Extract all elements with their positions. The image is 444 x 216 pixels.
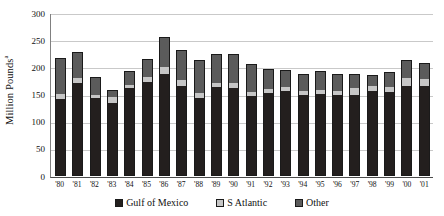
- bar-group[interactable]: [346, 14, 363, 176]
- bar-segment[interactable]: [143, 60, 152, 76]
- bar-segment[interactable]: [195, 61, 204, 93]
- bar-segment[interactable]: [402, 86, 411, 175]
- bar-segment[interactable]: [333, 95, 342, 175]
- bar-segment[interactable]: [56, 59, 65, 94]
- bar-stack[interactable]: [124, 71, 135, 176]
- bar-segment[interactable]: [368, 91, 377, 175]
- bar-segment[interactable]: [125, 88, 134, 175]
- bar-segment[interactable]: [333, 75, 342, 91]
- bar-stack[interactable]: [298, 74, 309, 177]
- bar-segment[interactable]: [247, 65, 256, 92]
- bar-segment[interactable]: [264, 70, 273, 89]
- bar-group[interactable]: [381, 14, 398, 176]
- bar-stack[interactable]: [72, 52, 83, 176]
- bar-segment[interactable]: [299, 75, 308, 91]
- bar-group[interactable]: [173, 14, 190, 176]
- bar-segment[interactable]: [316, 94, 325, 176]
- bar-stack[interactable]: [194, 60, 205, 176]
- x-axis-tick-label: '80: [51, 180, 68, 194]
- bar-group[interactable]: [121, 14, 138, 176]
- bar-stack[interactable]: [384, 72, 395, 176]
- bar-stack[interactable]: [142, 59, 153, 176]
- bar-segment[interactable]: [281, 91, 290, 175]
- bar-group[interactable]: [139, 14, 156, 176]
- bar-segment[interactable]: [385, 92, 394, 175]
- bar-stack[interactable]: [367, 75, 378, 176]
- bar-segment[interactable]: [160, 67, 169, 74]
- bar-stack[interactable]: [228, 54, 239, 176]
- bar-group[interactable]: [208, 14, 225, 176]
- bar-segment[interactable]: [73, 83, 82, 175]
- bar-segment[interactable]: [56, 99, 65, 175]
- bar-stack[interactable]: [401, 60, 412, 176]
- legend-item[interactable]: Other: [295, 198, 329, 208]
- bar-group[interactable]: [52, 14, 69, 176]
- bar-segment[interactable]: [316, 72, 325, 90]
- bar-stack[interactable]: [55, 58, 66, 176]
- bar-stack[interactable]: [419, 63, 430, 176]
- legend-swatch-icon: [216, 199, 224, 207]
- bar-segment[interactable]: [212, 87, 221, 175]
- bar-segment[interactable]: [247, 96, 256, 175]
- bar-group[interactable]: [87, 14, 104, 176]
- bar-group[interactable]: [260, 14, 277, 176]
- bar-segment[interactable]: [108, 103, 117, 175]
- bar-segment[interactable]: [385, 73, 394, 87]
- bar-group[interactable]: [69, 14, 86, 176]
- bar-segment[interactable]: [143, 82, 152, 175]
- bar-stack[interactable]: [246, 64, 257, 176]
- bar-segment[interactable]: [281, 71, 290, 87]
- bar-segment[interactable]: [91, 78, 100, 94]
- bar-group[interactable]: [364, 14, 381, 176]
- bar-segment[interactable]: [402, 78, 411, 86]
- bar-stack[interactable]: [349, 74, 360, 176]
- bar-stack[interactable]: [90, 77, 101, 176]
- bar-stack[interactable]: [280, 70, 291, 176]
- bar-segment[interactable]: [212, 55, 221, 83]
- y-axis-tick-label: 150: [32, 91, 46, 100]
- bar-stack[interactable]: [315, 71, 326, 176]
- bar-group[interactable]: [104, 14, 121, 176]
- bar-segment[interactable]: [420, 86, 429, 175]
- bar-group[interactable]: [294, 14, 311, 176]
- bar-stack[interactable]: [176, 50, 187, 176]
- x-axis-tick-label: '94: [294, 180, 311, 194]
- bar-group[interactable]: [398, 14, 415, 176]
- bar-segment[interactable]: [125, 72, 134, 84]
- bar-segment[interactable]: [350, 75, 359, 88]
- bar-segment[interactable]: [420, 79, 429, 86]
- bar-segment[interactable]: [350, 95, 359, 175]
- bar-group[interactable]: [329, 14, 346, 176]
- bar-group[interactable]: [242, 14, 259, 176]
- bar-segment[interactable]: [177, 51, 186, 81]
- bar-segment[interactable]: [177, 86, 186, 175]
- bar-segment[interactable]: [368, 76, 377, 87]
- bar-segment[interactable]: [160, 74, 169, 175]
- bar-segment[interactable]: [264, 93, 273, 175]
- bar-group[interactable]: [156, 14, 173, 176]
- bar-segment[interactable]: [402, 61, 411, 78]
- bar-group[interactable]: [416, 14, 433, 176]
- bar-stack[interactable]: [107, 90, 118, 176]
- bar-stack[interactable]: [211, 54, 222, 176]
- bar-segment[interactable]: [229, 88, 238, 175]
- bar-stack[interactable]: [263, 69, 274, 176]
- bar-segment[interactable]: [160, 38, 169, 68]
- bar-stack[interactable]: [332, 74, 343, 177]
- bar-segment[interactable]: [195, 98, 204, 175]
- bar-group[interactable]: [225, 14, 242, 176]
- legend-item[interactable]: Gulf of Mexico: [115, 198, 188, 208]
- bar-segment[interactable]: [299, 95, 308, 175]
- bar-segment[interactable]: [73, 53, 82, 78]
- bar-segment[interactable]: [420, 64, 429, 79]
- bar-stack[interactable]: [159, 37, 170, 176]
- bar-segment[interactable]: [229, 55, 238, 83]
- bar-group[interactable]: [191, 14, 208, 176]
- y-axis-title-superscript: a: [3, 55, 10, 58]
- x-axis-tick-label: '95: [311, 180, 328, 194]
- legend-label: S Atlantic: [227, 198, 267, 208]
- bar-segment[interactable]: [91, 98, 100, 175]
- legend-item[interactable]: S Atlantic: [216, 198, 267, 208]
- bar-group[interactable]: [312, 14, 329, 176]
- bar-group[interactable]: [277, 14, 294, 176]
